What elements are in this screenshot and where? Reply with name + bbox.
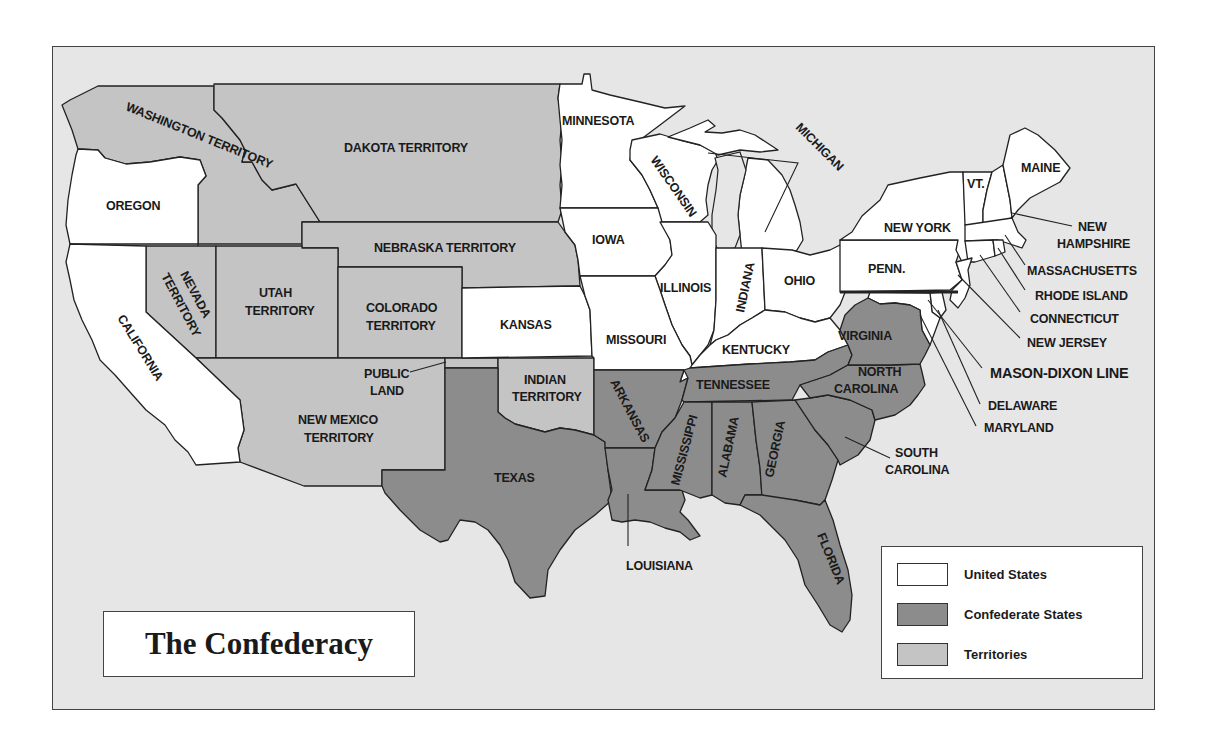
label-north-carolina-2: CAROLINA xyxy=(834,382,899,396)
label-missouri: MISSOURI xyxy=(606,333,666,347)
map-title-box: The Confederacy xyxy=(103,611,415,677)
label-penn: PENN. xyxy=(868,262,905,276)
label-new-hampshire-2: HAMPSHIRE xyxy=(1057,237,1130,251)
label-indian-1: INDIAN xyxy=(524,373,566,387)
label-louisiana: LOUISIANA xyxy=(626,559,693,573)
label-new-mexico-2: TERRITORY xyxy=(304,431,375,445)
map-title: The Confederacy xyxy=(145,626,373,662)
region-utah-territory xyxy=(216,246,338,358)
region-rhode-island xyxy=(993,240,1005,256)
label-maine: MAINE xyxy=(1021,161,1060,175)
label-utah-2: TERRITORY xyxy=(245,304,316,318)
label-utah-1: UTAH xyxy=(259,286,292,300)
label-rhode-island: RHODE ISLAND xyxy=(1035,289,1128,303)
label-colorado-1: COLORADO xyxy=(366,301,438,315)
label-virginia: VIRGINIA xyxy=(838,329,892,343)
label-new-jersey: NEW JERSEY xyxy=(1027,336,1108,350)
label-texas: TEXAS xyxy=(494,471,535,485)
legend-swatch-territories xyxy=(897,643,948,666)
map-legend: United States Confederate States Territo… xyxy=(881,546,1143,679)
legend-item-united-states: United States xyxy=(897,563,1047,586)
label-tennessee: TENNESSEE xyxy=(696,378,770,392)
legend-item-confederate-states: Confederate States xyxy=(897,603,1082,626)
label-public-land-2: LAND xyxy=(370,384,404,398)
leader-new-jersey xyxy=(958,275,1020,338)
leader-mason-dixon xyxy=(928,300,982,368)
label-delaware: DELAWARE xyxy=(988,399,1057,413)
legend-label: United States xyxy=(964,567,1047,582)
label-new-mexico-1: NEW MEXICO xyxy=(298,413,378,427)
legend-label: Confederate States xyxy=(964,607,1082,622)
label-kansas: KANSAS xyxy=(500,318,552,332)
label-public-land-1: PUBLIC xyxy=(364,367,410,381)
label-ohio: OHIO xyxy=(784,274,816,288)
legend-item-territories: Territories xyxy=(897,643,1027,666)
legend-swatch-united-states xyxy=(897,563,948,586)
label-michigan: MICHIGAN xyxy=(793,120,847,174)
label-massachusetts: MASSACHUSETTS xyxy=(1027,264,1137,278)
label-iowa: IOWA xyxy=(592,233,625,247)
legend-swatch-confederate-states xyxy=(897,603,948,626)
label-new-hampshire-1: NEW xyxy=(1078,220,1107,234)
label-indian-2: TERRITORY xyxy=(512,390,583,404)
label-south-carolina-2: CAROLINA xyxy=(885,463,950,477)
leader-new-hampshire xyxy=(1012,213,1072,226)
label-oregon: OREGON xyxy=(106,199,161,213)
label-vt: VT. xyxy=(967,177,984,191)
label-maryland: MARYLAND xyxy=(984,421,1054,435)
region-oregon xyxy=(66,149,206,244)
leader-rhode-island xyxy=(998,248,1025,290)
label-kentucky: KENTUCKY xyxy=(722,343,791,357)
label-minnesota: MINNESOTA xyxy=(562,114,634,128)
label-mason-dixon-line: MASON-DIXON LINE xyxy=(990,365,1129,381)
region-public-land xyxy=(445,358,498,368)
label-illinois: ILLINOIS xyxy=(660,281,711,295)
label-dakota-territory: DAKOTA TERRITORY xyxy=(344,141,469,155)
label-colorado-2: TERRITORY xyxy=(366,319,437,333)
label-north-carolina-1: NORTH xyxy=(858,365,902,379)
label-new-york: NEW YORK xyxy=(884,221,951,235)
legend-label: Territories xyxy=(964,647,1027,662)
label-connecticut: CONNECTICUT xyxy=(1030,312,1119,326)
label-nebraska-territory: NEBRASKA TERRITORY xyxy=(374,241,517,255)
label-south-carolina-1: SOUTH xyxy=(895,446,938,460)
